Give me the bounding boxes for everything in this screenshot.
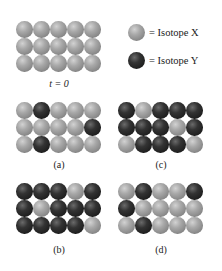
isotope-y-sphere-icon xyxy=(67,200,84,217)
isotope-y-sphere-icon xyxy=(152,102,169,119)
isotope-x-sphere-icon xyxy=(67,183,84,200)
isotope-x-sphere-icon xyxy=(135,200,152,217)
isotope-y-sphere-icon xyxy=(50,217,67,234)
isotope-x-sphere-icon xyxy=(152,183,169,200)
isotope-y-sphere-icon xyxy=(135,183,152,200)
isotope-y-sphere-icon xyxy=(118,102,135,119)
panel-t0-label: t = 0 xyxy=(29,78,89,89)
panel-a-label: (a) xyxy=(29,159,89,170)
legend-text-x: = Isotope X xyxy=(149,27,199,38)
isotope-x-sphere-icon xyxy=(186,200,203,217)
panel-b-grid xyxy=(16,183,101,234)
isotope-x-sphere-icon xyxy=(118,136,135,153)
isotope-x-sphere-icon xyxy=(33,55,50,72)
panel-d-grid xyxy=(118,183,203,234)
isotope-y-sphere-icon xyxy=(152,119,169,136)
isotope-x-sphere-icon xyxy=(50,119,67,136)
isotope-x-sphere-icon xyxy=(50,21,67,38)
legend-isotope-x: = Isotope X xyxy=(128,24,199,41)
isotope-x-sphere-icon xyxy=(84,217,101,234)
isotope-y-sphere-icon xyxy=(16,217,33,234)
isotope-y-sphere-icon xyxy=(169,102,186,119)
isotope-x-sphere-icon xyxy=(16,38,33,55)
panel-t0-grid xyxy=(16,21,101,72)
isotope-x-sphere-icon xyxy=(169,217,186,234)
panel-b-label: (b) xyxy=(29,244,89,255)
isotope-x-sphere-icon xyxy=(50,102,67,119)
isotope-x-sphere-icon xyxy=(128,24,145,41)
isotope-x-sphere-icon xyxy=(84,136,101,153)
isotope-y-sphere-icon xyxy=(135,217,152,234)
isotope-y-sphere-icon xyxy=(16,183,33,200)
isotope-y-sphere-icon xyxy=(135,119,152,136)
isotope-x-sphere-icon xyxy=(169,119,186,136)
isotope-x-sphere-icon xyxy=(16,136,33,153)
panel-c-grid xyxy=(118,102,203,153)
isotope-x-sphere-icon xyxy=(33,38,50,55)
isotope-y-sphere-icon xyxy=(152,136,169,153)
isotope-x-sphere-icon xyxy=(50,38,67,55)
isotope-y-sphere-icon xyxy=(33,102,50,119)
isotope-y-sphere-icon xyxy=(128,52,145,69)
isotope-x-sphere-icon xyxy=(84,21,101,38)
isotope-y-sphere-icon xyxy=(50,183,67,200)
isotope-x-sphere-icon xyxy=(50,55,67,72)
isotope-y-sphere-icon xyxy=(186,102,203,119)
isotope-y-sphere-icon xyxy=(84,183,101,200)
isotope-x-sphere-icon xyxy=(16,21,33,38)
isotope-y-sphere-icon xyxy=(118,200,135,217)
isotope-x-sphere-icon xyxy=(169,183,186,200)
isotope-x-sphere-icon xyxy=(33,21,50,38)
isotope-x-sphere-icon xyxy=(16,119,33,136)
isotope-x-sphere-icon xyxy=(50,136,67,153)
isotope-y-sphere-icon xyxy=(135,136,152,153)
isotope-x-sphere-icon xyxy=(67,55,84,72)
isotope-x-sphere-icon xyxy=(67,38,84,55)
isotope-x-sphere-icon xyxy=(67,102,84,119)
isotope-x-sphere-icon xyxy=(169,200,186,217)
isotope-x-sphere-icon xyxy=(67,21,84,38)
panel-a-grid xyxy=(16,102,101,153)
isotope-y-sphere-icon xyxy=(169,136,186,153)
isotope-y-sphere-icon xyxy=(186,119,203,136)
isotope-x-sphere-icon xyxy=(67,119,84,136)
isotope-y-sphere-icon xyxy=(118,119,135,136)
isotope-x-sphere-icon xyxy=(33,119,50,136)
isotope-x-sphere-icon xyxy=(135,102,152,119)
isotope-y-sphere-icon xyxy=(50,200,67,217)
isotope-x-sphere-icon xyxy=(16,102,33,119)
isotope-x-sphere-icon xyxy=(84,102,101,119)
legend-text-y: = Isotope Y xyxy=(149,55,198,66)
isotope-y-sphere-icon xyxy=(33,136,50,153)
isotope-x-sphere-icon xyxy=(152,217,169,234)
isotope-y-sphere-icon xyxy=(33,183,50,200)
isotope-x-sphere-icon xyxy=(84,38,101,55)
isotope-x-sphere-icon xyxy=(118,183,135,200)
isotope-x-sphere-icon xyxy=(84,55,101,72)
isotope-x-sphere-icon xyxy=(152,200,169,217)
isotope-x-sphere-icon xyxy=(33,200,50,217)
isotope-y-sphere-icon xyxy=(84,200,101,217)
legend-isotope-y: = Isotope Y xyxy=(128,52,198,69)
panel-d-label: (d) xyxy=(131,244,191,255)
isotope-x-sphere-icon xyxy=(186,136,203,153)
panel-c-label: (c) xyxy=(131,159,191,170)
isotope-y-sphere-icon xyxy=(33,217,50,234)
isotope-y-sphere-icon xyxy=(186,183,203,200)
isotope-x-sphere-icon xyxy=(16,55,33,72)
isotope-y-sphere-icon xyxy=(16,200,33,217)
isotope-x-sphere-icon xyxy=(118,217,135,234)
isotope-x-sphere-icon xyxy=(67,136,84,153)
isotope-y-sphere-icon xyxy=(84,119,101,136)
isotope-y-sphere-icon xyxy=(67,217,84,234)
isotope-x-sphere-icon xyxy=(186,217,203,234)
